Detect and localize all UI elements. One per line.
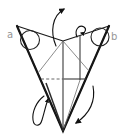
diagram-canvas: a b (0, 0, 125, 140)
wrap-behind-arrow (33, 96, 48, 125)
inner-layer-edge-right (64, 80, 80, 128)
origami-diagram: a b (0, 0, 125, 140)
label-a: a (7, 29, 13, 40)
inner-layer-edge-left (46, 83, 62, 127)
swing-down-arrow (76, 86, 94, 123)
right-diagonal-crease (63, 41, 89, 71)
left-diagonal-crease (38, 41, 63, 73)
label-b: b (111, 31, 117, 42)
circle-highlight-b (91, 28, 109, 46)
